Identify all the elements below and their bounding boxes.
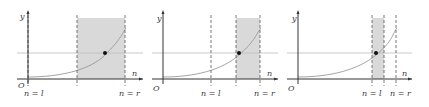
x-axis-arrow-icon (408, 78, 412, 81)
y-axis-label: y (291, 14, 297, 23)
right-bound-label: n = r (390, 89, 412, 98)
y-axis-arrow-icon (27, 10, 30, 14)
panel-3: y n O n = l n = r (287, 10, 412, 98)
panel-2: y n O n = l n = r (152, 10, 278, 98)
x-axis-label: n (132, 69, 137, 78)
y-axis-label: y (156, 14, 162, 23)
origin-label: O (153, 84, 160, 93)
y-axis-arrow-icon (162, 10, 165, 14)
panel-1: y n O n = l n = r (17, 10, 143, 98)
right-bound-label: n = r (254, 89, 276, 98)
y-axis-label: y (19, 12, 25, 21)
midpoint-dot (237, 51, 241, 55)
left-bound-label: n = l (24, 89, 44, 98)
left-bound-label: n = l (362, 89, 382, 98)
origin-label: O (288, 84, 295, 93)
x-axis-label: n (267, 69, 272, 78)
x-axis-arrow-icon (139, 78, 143, 81)
search-range-shade (372, 18, 384, 79)
y-axis-arrow-icon (297, 10, 300, 14)
search-range-shade (77, 18, 125, 79)
right-bound-label: n = r (119, 89, 141, 98)
midpoint-dot (374, 51, 378, 55)
left-bound-label: n = l (201, 89, 221, 98)
search-range-shade (236, 18, 260, 79)
x-axis-arrow-icon (274, 78, 278, 81)
x-axis-label: n (402, 69, 407, 78)
binary-search-diagram: y n O n = l n = r y n O n = l n = r (0, 0, 429, 107)
midpoint-dot (103, 51, 107, 55)
